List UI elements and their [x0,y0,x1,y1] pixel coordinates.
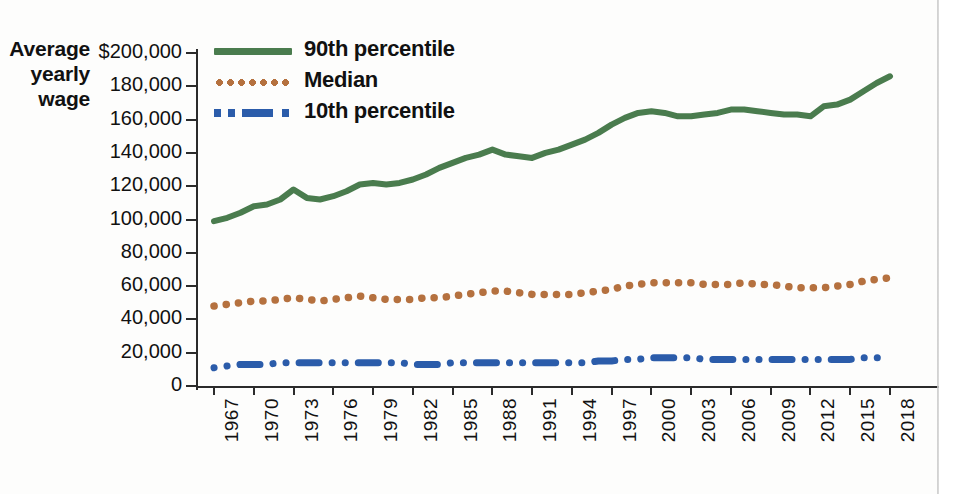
x-axis-tick [770,388,772,395]
y-axis-tick-label: 180,000 [86,73,182,96]
legend-item-median: Median [214,67,544,98]
x-axis-tick [293,388,295,395]
x-axis-tick-label: 1985 [460,398,482,442]
x-axis-tick-label: 2009 [778,398,800,442]
y-axis-tick-label-wrap: 20,000 [86,340,182,362]
y-axis-tick-label-wrap: 0 [86,373,182,395]
x-axis-tick-label: 2015 [857,398,879,442]
x-axis-tick [571,388,573,395]
x-axis-tick [372,388,374,395]
y-axis-tick-label-wrap: 180,000 [86,73,182,95]
y-axis-tick [186,119,196,121]
x-axis-tick [809,388,811,395]
y-axis-tick-label: 60,000 [86,273,182,296]
x-axis-tick-label: 1982 [420,398,442,442]
x-axis-tick-label: 2000 [658,398,680,442]
y-axis-tick-label: 0 [86,373,182,396]
y-axis-title-line-1: Average [0,36,90,61]
legend-swatch-p90 [214,48,292,55]
y-axis-tick-label-wrap: 100,000 [86,207,182,229]
y-axis-tick-label: 160,000 [86,107,182,130]
y-axis-tick [186,85,196,87]
x-axis-tick-label: 1967 [221,398,243,442]
x-axis-tick [730,388,732,395]
x-axis-line [196,386,941,388]
x-axis-tick-label: 1991 [539,398,561,442]
x-axis-tick [889,388,891,395]
x-axis-tick-label: 1997 [619,398,641,442]
x-axis-tick [253,388,255,395]
x-axis-tick [213,388,215,395]
x-axis-tick-label: 2006 [738,398,760,442]
x-axis-tick [849,388,851,395]
x-axis-tick-label: 2003 [698,398,720,442]
x-axis-tick-label: 1976 [340,398,362,442]
y-axis-tick [186,185,196,187]
y-axis-tick-label-wrap: 40,000 [86,306,182,328]
y-axis-tick-label: 120,000 [86,173,182,196]
y-axis-title-line-3: wage [0,86,90,111]
y-axis-tick [186,252,196,254]
y-axis-tick-label: 140,000 [86,140,182,163]
scan-margin [939,0,961,494]
x-axis-tick [332,388,334,395]
y-axis-title-line-2: yearly [0,61,90,86]
chart-page: Average yearly wage $200,000180,000160,0… [0,0,961,494]
y-axis-tick-label-wrap: 160,000 [86,107,182,129]
x-axis-tick [452,388,454,395]
x-axis-tick [611,388,613,395]
legend-item-p90: 90th percentile [214,36,544,67]
y-axis-tick [186,285,196,287]
series-line-median [214,278,890,306]
y-axis-tick [186,52,196,54]
x-axis-tick-label: 2012 [817,398,839,442]
legend-label-median: Median [304,67,378,93]
x-axis-tick-label: 1988 [499,398,521,442]
y-axis-tick [186,352,196,354]
y-axis-tick-label-wrap: 120,000 [86,173,182,195]
legend-swatch-p10 [214,109,292,117]
series-line-10th-percentile [214,358,890,368]
x-axis-tick [531,388,533,395]
x-axis-tick [412,388,414,395]
legend-swatch-median [214,78,292,87]
y-axis-tick-label-wrap: 80,000 [86,240,182,262]
x-axis-tick [650,388,652,395]
y-axis-tick-label: 80,000 [86,240,182,263]
y-axis-title: Average yearly wage [0,36,90,111]
y-axis-tick [186,385,196,387]
y-axis-tick-label-wrap: $200,000 [86,40,182,62]
y-axis-tick-label: 20,000 [86,340,182,363]
y-axis-tick-label: 100,000 [86,207,182,230]
y-axis-tick-label-wrap: 60,000 [86,273,182,295]
y-axis-tick [186,152,196,154]
y-axis-tick [186,219,196,221]
y-axis-tick [186,318,196,320]
y-axis-tick-label: 40,000 [86,306,182,329]
legend-item-p10: 10th percentile [214,98,544,129]
x-axis-tick-label: 1979 [380,398,402,442]
x-axis-tick-label: 2018 [897,398,919,442]
legend-label-p90: 90th percentile [304,36,455,62]
x-axis-tick [690,388,692,395]
y-axis-tick-label: $200,000 [86,40,182,63]
x-axis-tick-label: 1973 [301,398,323,442]
x-axis-tick [491,388,493,395]
x-axis-tick-label: 1970 [261,398,283,442]
chart-legend: 90th percentile Median 10th percentile [214,36,544,129]
x-axis-tick-label: 1994 [579,398,601,442]
y-axis-tick-label-wrap: 140,000 [86,140,182,162]
legend-label-p10: 10th percentile [304,98,455,124]
